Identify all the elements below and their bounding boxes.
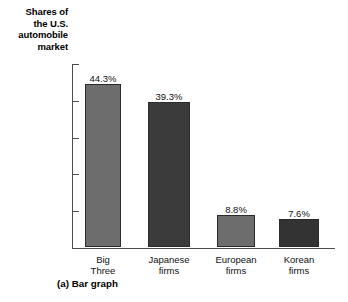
- bar-korean-firms: [279, 219, 319, 247]
- x-category-label-japanese-firms-line-1: Japanese: [133, 254, 205, 265]
- x-category-label-european-firms-line-2: firms: [200, 265, 272, 276]
- y-tick-mark-40: [73, 101, 79, 102]
- chart-title-line-4: market: [2, 41, 68, 53]
- chart-title: Shares of the U.S. automobile market: [2, 6, 68, 52]
- chart-title-line-3: automobile: [2, 29, 68, 41]
- x-category-label-korean-firms: Korean firms: [263, 254, 335, 277]
- chart-title-line-2: the U.S.: [2, 18, 68, 30]
- x-category-label-japanese-firms-line-2: firms: [133, 265, 205, 276]
- x-category-label-japanese-firms: Japanese firms: [133, 254, 205, 277]
- bar-value-japanese-firms: 39.3%: [133, 92, 205, 102]
- y-tick-mark-0: [73, 248, 79, 249]
- plot-area: 50% 40 30 20 10 0 44.3% 39.3% 8.8% 7.6% …: [72, 64, 334, 248]
- y-axis-line: [72, 64, 73, 249]
- bar-european-firms: [217, 215, 255, 247]
- x-category-label-korean-firms-line-1: Korean: [263, 254, 335, 265]
- chart-title-line-1: Shares of: [2, 6, 68, 18]
- y-tick-mark-50: [73, 64, 79, 65]
- figure-caption: (a) Bar graph: [57, 278, 118, 289]
- x-category-label-korean-firms-line-2: firms: [263, 265, 335, 276]
- bar-big-three: [85, 84, 121, 247]
- x-category-label-european-firms: European firms: [200, 254, 272, 277]
- bar-value-big-three: 44.3%: [67, 74, 139, 84]
- x-axis-line: [72, 248, 335, 249]
- x-category-label-big-three: Big Three: [67, 254, 139, 277]
- bar-graph-figure: Shares of the U.S. automobile market 50%…: [0, 0, 348, 302]
- bar-value-korean-firms: 7.6%: [263, 209, 335, 219]
- x-category-label-big-three-line-1: Big: [67, 254, 139, 265]
- x-category-label-big-three-line-2: Three: [67, 265, 139, 276]
- bar-japanese-firms: [148, 102, 190, 247]
- y-tick-mark-20: [73, 174, 79, 175]
- y-tick-mark-30: [73, 138, 79, 139]
- y-tick-mark-10: [73, 211, 79, 212]
- x-category-label-european-firms-line-1: European: [200, 254, 272, 265]
- bar-value-european-firms: 8.8%: [200, 205, 272, 215]
